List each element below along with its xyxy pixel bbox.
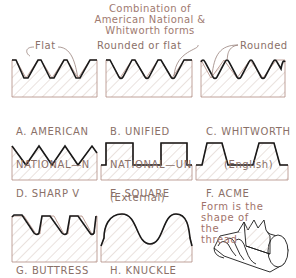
label-a: A. AMERICAN NATIONAL—N xyxy=(16,104,90,181)
leader-rounded-2 xyxy=(227,45,238,60)
title-line-3: Whitworth forms xyxy=(80,25,220,36)
callout-rounded: Rounded xyxy=(240,40,288,51)
label-c: C. WHITWORTH (English) xyxy=(206,104,291,181)
callout-flat: Flat xyxy=(35,40,56,51)
label-g: G. BUTTRESS xyxy=(16,265,89,276)
title-line-2: American National & xyxy=(80,14,220,25)
label-h: H. KNUCKLE xyxy=(110,265,177,276)
title-line-1: Combination of xyxy=(80,3,220,14)
form-buttress xyxy=(12,215,97,262)
thread-form-note: Form is the shape of the thread xyxy=(201,201,264,245)
form-knuckle xyxy=(101,214,192,262)
diagram-title: Combination of American National & Whitw… xyxy=(80,3,220,36)
form-whitworth xyxy=(201,45,285,97)
label-f: F. ACME xyxy=(206,188,249,199)
label-d: D. SHARP V xyxy=(16,188,80,199)
label-e: E. SQUARE xyxy=(110,188,170,199)
callout-rounded-or-flat: Rounded or flat xyxy=(97,40,182,51)
form-unified-national xyxy=(106,45,198,97)
form-american-national xyxy=(12,47,97,97)
leader-flat-left xyxy=(27,47,34,56)
